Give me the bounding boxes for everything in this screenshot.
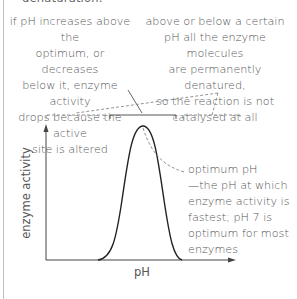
right-annotation-pointer-right	[212, 93, 218, 115]
x-axis-arrow-icon	[228, 258, 236, 263]
annotation-optimum-line: optimum pH	[188, 162, 296, 178]
annotation-optimum-line: enzyme activity is	[188, 194, 296, 210]
x-axis-label: pH	[134, 265, 150, 279]
optimum-pointer	[143, 128, 184, 172]
annotation-optimum-line: optimum for most	[188, 226, 296, 242]
denatured-range-right-bracket	[183, 115, 240, 119]
enzyme-activity-curve	[98, 126, 182, 260]
activity-drop-bracket	[110, 115, 176, 119]
y-axis-label: enzyme activity	[19, 147, 33, 239]
right-annotation-pointer-left	[76, 93, 218, 113]
annotation-optimum: optimum pH —the pH at which enzyme activ…	[188, 162, 296, 258]
annotation-optimum-line: enzymes	[188, 242, 296, 258]
denatured-range-left-bracket	[46, 115, 104, 119]
y-axis-arrow-icon	[44, 124, 49, 132]
annotation-optimum-line: fastest; pH 7 is	[188, 210, 296, 226]
left-annotation-pointer	[128, 90, 142, 113]
annotation-optimum-line: —the pH at which	[188, 178, 296, 194]
